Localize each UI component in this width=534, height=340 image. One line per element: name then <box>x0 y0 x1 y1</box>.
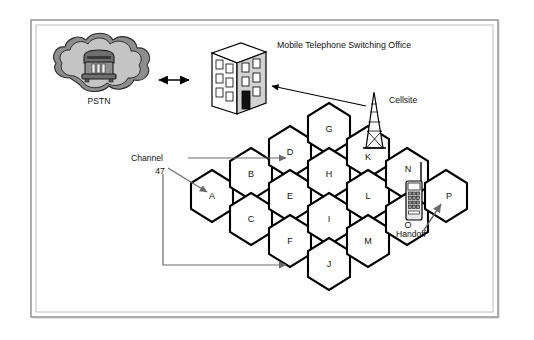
figure-canvas: PSTN Mobile Telepho <box>0 0 534 340</box>
channel-label: Channel <box>131 153 163 163</box>
cell-label-G: G <box>325 124 332 134</box>
cellular-network-diagram: PSTN Mobile Telepho <box>0 0 534 340</box>
handoff-label: Handoff <box>396 229 427 239</box>
cell-label-H: H <box>326 169 333 179</box>
cell-label-L: L <box>365 191 370 201</box>
cell-label-P: P <box>446 191 452 201</box>
cell-label-K: K <box>365 152 371 162</box>
cell-label-F: F <box>287 236 293 246</box>
telephone-icon <box>82 50 116 82</box>
cell-label-B: B <box>248 169 254 179</box>
mtso-label: Mobile Telephone Switching Office <box>277 40 411 50</box>
cell-label-M: M <box>364 236 372 246</box>
mtso-office-building-icon <box>212 43 266 114</box>
cell-label-J: J <box>327 259 332 269</box>
channel-number-label: 47 <box>155 166 165 176</box>
cell-label-E: E <box>287 191 293 201</box>
cell-label-A: A <box>209 191 215 201</box>
cell-label-N: N <box>405 164 412 174</box>
cell-label-I: I <box>328 214 331 224</box>
cell-label-D: D <box>287 147 294 157</box>
cellsite-label: Cellsite <box>389 95 417 105</box>
cell-label-C: C <box>248 214 255 224</box>
pstn-label: PSTN <box>88 96 111 106</box>
